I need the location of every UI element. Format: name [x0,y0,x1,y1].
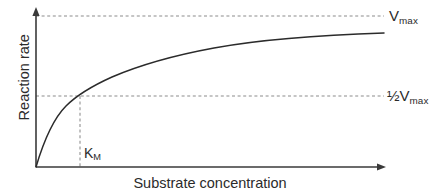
vmax-label-main: V [389,7,399,24]
half-vmax-label: ½Vmax [387,88,428,103]
x-axis-arrow-icon [377,163,386,170]
km-label-sub: M [93,152,101,162]
km-label: KM [84,146,101,160]
x-axis-label: Substrate concentration [0,176,420,191]
y-axis-arrow-icon [32,7,39,16]
michaelis-menten-chart: Vmax ½Vmax KM Substrate concentration Re… [0,0,442,196]
km-label-main: K [84,145,93,161]
y-axis-label: Reaction rate [17,15,32,139]
plot-area [0,0,442,196]
half-vmax-label-main: ½V [387,87,410,104]
half-vmax-label-sub: max [410,95,429,106]
vmax-label: Vmax [389,8,418,23]
vmax-label-sub: max [399,15,418,26]
